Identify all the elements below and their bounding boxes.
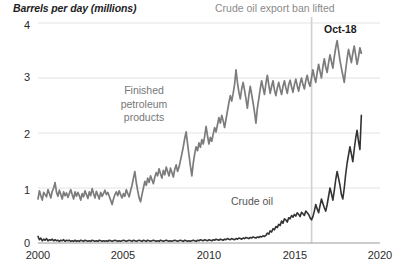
y-axis-tick-3: 3: [4, 71, 30, 83]
x-axis-tick-2010: 2010: [184, 249, 234, 261]
series-line-crude-oil: [38, 115, 361, 241]
x-axis-tick-2005: 2005: [98, 249, 148, 261]
series-label-finished-petroleum-products: Finished petroleum products: [104, 84, 184, 125]
y-axis-tick-1: 1: [4, 184, 30, 196]
series-label-crude-oil: Crude oil: [212, 195, 292, 209]
series-label-line-3: products: [104, 111, 184, 125]
series-line-finished-petroleum-products: [38, 41, 361, 205]
y-axis-tick-2: 2: [4, 128, 30, 140]
series-label-line-2: petroleum: [104, 98, 184, 112]
annotation-oct18: Oct-18: [324, 23, 357, 35]
x-axis-tick-2020: 2020: [355, 249, 396, 261]
x-axis-tick-2000: 2000: [13, 249, 63, 261]
chart-container: Barrels per day (millions) 4 3 2 1 0 200…: [0, 0, 396, 271]
annotation-export-ban-lifted: Crude oil export ban lifted: [215, 2, 335, 14]
y-axis-tick-4: 4: [4, 19, 30, 31]
series-label-line-1: Finished: [104, 84, 184, 98]
y-axis-tick-0: 0: [4, 237, 30, 249]
x-axis-tick-2015: 2015: [270, 249, 320, 261]
plot-svg: [0, 0, 396, 271]
y-axis-title: Barrels per day (millions): [13, 2, 136, 14]
